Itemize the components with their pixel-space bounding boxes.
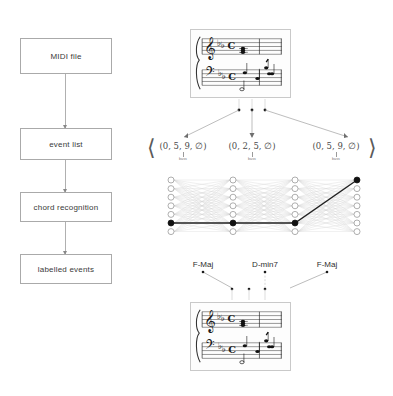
svg-text:C: C xyxy=(228,344,236,355)
pipeline-arrow-3 xyxy=(65,222,66,254)
trellis-node[interactable] xyxy=(354,186,360,192)
input-score-panel[interactable]: 𝄞 𝄢 ♭ ♭ ♭ ♭ C C xyxy=(190,29,291,98)
trellis-node-active[interactable] xyxy=(168,220,174,226)
trellis-node[interactable] xyxy=(354,229,360,235)
tuple-sublabel: bass xyxy=(152,157,214,161)
svg-text:♭: ♭ xyxy=(222,71,226,81)
svg-text:C: C xyxy=(228,71,236,82)
trellis-node-active[interactable] xyxy=(292,220,298,226)
tuple-text: (0, 5, 9, ∅) xyxy=(312,141,359,151)
pipeline-arrow-1 xyxy=(65,74,66,128)
trellis-node[interactable] xyxy=(354,203,360,209)
trellis-node-active[interactable] xyxy=(354,177,360,183)
trellis-node[interactable] xyxy=(230,194,236,200)
chord-label-1[interactable]: F-Maj xyxy=(178,260,228,269)
trellis-node[interactable] xyxy=(230,177,236,183)
trellis-node[interactable] xyxy=(292,186,298,192)
trellis-node[interactable] xyxy=(292,229,298,235)
trellis-node[interactable] xyxy=(354,211,360,217)
pipeline-step-label: chord recognition xyxy=(34,203,99,212)
svg-text:♭: ♭ xyxy=(221,313,225,323)
labelled-score-panel[interactable]: 𝄞 𝄢 ♭ ♭ ♭ ♭ C C xyxy=(190,302,291,371)
trellis-node[interactable] xyxy=(168,203,174,209)
trellis-node[interactable] xyxy=(292,211,298,217)
labelled-score-notation: 𝄞 𝄢 ♭ ♭ ♭ ♭ C C xyxy=(191,303,290,370)
svg-text:𝄢: 𝄢 xyxy=(205,64,215,81)
trellis-node[interactable] xyxy=(168,211,174,217)
svg-text:𝄞: 𝄞 xyxy=(204,308,216,333)
pipeline-step-midi-file[interactable]: MIDI file xyxy=(20,38,112,74)
pipeline-step-label: MIDI file xyxy=(50,52,81,61)
svg-text:𝄞: 𝄞 xyxy=(204,35,216,60)
trellis-node[interactable] xyxy=(354,220,360,226)
pipeline-step-label: event list xyxy=(49,140,83,149)
tuple-item-3[interactable]: (0, 5, 9, ∅) bass xyxy=(305,141,367,161)
trellis-node[interactable] xyxy=(168,177,174,183)
figure-canvas: MIDI file event list chord recognition l… xyxy=(0,0,393,396)
trellis-node-active[interactable] xyxy=(230,220,236,226)
input-score-notation: 𝄞 𝄢 ♭ ♭ ♭ ♭ C C xyxy=(191,30,290,97)
trellis-node[interactable] xyxy=(168,194,174,200)
trellis-node[interactable] xyxy=(230,203,236,209)
pipeline-step-labelled-events[interactable]: labelled events xyxy=(20,254,112,284)
trellis-node[interactable] xyxy=(168,229,174,235)
tuple-sublabel: bass xyxy=(305,157,367,161)
tuple-outer-close-bracket: ⟩ xyxy=(368,137,377,159)
svg-text:♭: ♭ xyxy=(221,40,225,50)
pipeline-arrow-2 xyxy=(65,160,66,192)
tuple-text: (0, 2, 5, ∅) xyxy=(228,141,275,151)
trellis-node[interactable] xyxy=(168,186,174,192)
trellis-node[interactable] xyxy=(292,203,298,209)
trellis-node[interactable] xyxy=(230,211,236,217)
chord-label-2[interactable]: D-min7 xyxy=(240,260,290,269)
pipeline-step-label: labelled events xyxy=(38,265,94,274)
trellis-node[interactable] xyxy=(230,186,236,192)
trellis-node[interactable] xyxy=(292,194,298,200)
trellis-node[interactable] xyxy=(292,177,298,183)
svg-text:C: C xyxy=(227,313,235,324)
svg-text:C: C xyxy=(227,40,235,51)
trellis-node[interactable] xyxy=(230,229,236,235)
svg-text:𝄢: 𝄢 xyxy=(205,337,215,354)
trellis-node[interactable] xyxy=(354,194,360,200)
pipeline-step-event-list[interactable]: event list xyxy=(20,128,112,160)
pipeline-step-chord-recognition[interactable]: chord recognition xyxy=(20,192,112,222)
chord-label-3[interactable]: F-Maj xyxy=(302,260,352,269)
tuple-text: (0, 5, 9, ∅) xyxy=(159,141,206,151)
svg-text:♭: ♭ xyxy=(222,344,226,354)
tuple-item-1[interactable]: (0, 5, 9, ∅) bass xyxy=(152,141,214,161)
tuple-item-2[interactable]: (0, 2, 5, ∅) bass xyxy=(221,141,283,161)
tuple-sublabel: bass xyxy=(221,157,283,161)
